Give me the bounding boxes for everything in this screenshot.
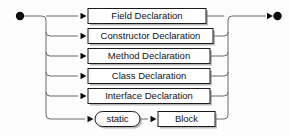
- end-circle-icon: [273, 12, 281, 20]
- right-branch-stub-4: [210, 92, 228, 96]
- node-label-block: Block: [175, 113, 198, 124]
- node-block[interactable]: Block: [158, 112, 217, 129]
- node-label-class-declaration: Class Declaration: [112, 70, 186, 81]
- node-label-field-declaration: Field Declaration: [111, 10, 182, 21]
- railroad-diagram-canvas: Field Declaration Constructor Declaratio…: [0, 0, 290, 137]
- railroad-diagram: Field Declaration Constructor Declaratio…: [0, 0, 290, 137]
- right-rail-trunk: [228, 16, 266, 115]
- node-field-declaration[interactable]: Field Declaration: [88, 9, 208, 26]
- arrow-icon-constructor: [81, 33, 87, 39]
- node-label-static: static: [106, 113, 128, 124]
- right-branch-stub-2: [210, 52, 228, 56]
- node-class-declaration[interactable]: Class Declaration: [88, 69, 212, 86]
- left-branch-stub-4: [46, 92, 78, 96]
- arrow-icon-block: [151, 116, 157, 122]
- node-label-constructor-declaration: Constructor Declaration: [101, 30, 201, 41]
- node-label-method-declaration: Method Declaration: [108, 50, 190, 61]
- left-rail-trunk: [42, 16, 50, 119]
- left-branch-stub-1: [46, 32, 78, 36]
- left-branch-stub-3: [46, 72, 78, 76]
- node-static-terminal[interactable]: static: [95, 112, 142, 129]
- arrow-icon-class: [81, 73, 87, 79]
- end-node: [267, 12, 282, 20]
- arrow-icon-field: [81, 13, 87, 19]
- left-branch-stub-2: [46, 52, 78, 56]
- node-interface-declaration[interactable]: Interface Declaration: [88, 89, 212, 106]
- node-method-declaration[interactable]: Method Declaration: [88, 49, 212, 66]
- arrow-icon-interface: [81, 93, 87, 99]
- arrow-icon-end: [267, 13, 273, 19]
- node-label-interface-declaration: Interface Declaration: [105, 90, 193, 101]
- start-node: [16, 12, 24, 20]
- arrow-icon-method: [81, 53, 87, 59]
- right-branch-stub-1: [213, 32, 228, 36]
- right-branch-stub-3: [210, 72, 228, 76]
- arrow-icon-static: [88, 116, 94, 122]
- node-constructor-declaration[interactable]: Constructor Declaration: [88, 29, 215, 46]
